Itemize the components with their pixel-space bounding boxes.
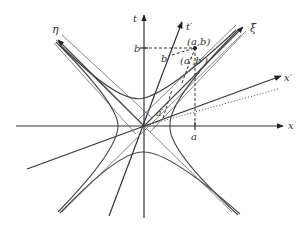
b-label: b	[134, 43, 140, 54]
point-ab-label: (a,b)	[187, 36, 210, 47]
xi-label: ξ	[250, 22, 257, 35]
t-prime-label: t′	[186, 21, 193, 32]
a-prime-label: a′	[156, 108, 163, 118]
b-prime-label: b′	[161, 53, 170, 64]
eta-label: η	[52, 23, 59, 36]
x-label: x	[288, 120, 294, 131]
a-label: a	[191, 131, 197, 142]
hyperbola-lower	[60, 152, 240, 214]
x-prime-axis	[27, 76, 281, 169]
x-prime-label: x′	[284, 72, 293, 83]
point-ab-prime-label: (a′,b′)	[180, 55, 208, 66]
light-cone-lines	[56, 35, 241, 212]
t-label: t	[133, 13, 138, 24]
spacetime-diagram: t t′ x x′ ξ η b a b′ a′ (a,b) (a′,b′)	[0, 0, 307, 235]
